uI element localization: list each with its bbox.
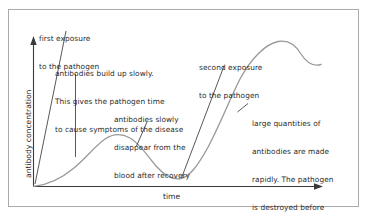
annotation-decay-line3: blood after recovery — [114, 171, 190, 180]
annotation-secondary-response-line3: rapidly. The pathogen — [252, 175, 333, 184]
annotation-secondary-response: large quantities of antibodies are made … — [252, 100, 333, 216]
annotation-secondary-response-line1: large quantities of — [252, 119, 333, 128]
annotation-decay-line2: disappear from the — [114, 143, 190, 152]
x-axis-label: time — [163, 192, 180, 201]
annotation-decay-line1: antibodies slowly — [114, 115, 190, 124]
y-axis-label: antibody concentration — [24, 90, 33, 178]
annotation-second-exposure-line1: second exposure — [199, 63, 262, 72]
annotation-decay: antibodies slowly disappear from the blo… — [114, 96, 190, 199]
annotation-secondary-response-line4: is destroyed before — [252, 203, 333, 212]
annotation-first-exposure-line1: first exposure — [39, 34, 99, 43]
annotation-secondary-response-line2: antibodies are made — [252, 147, 333, 156]
annotation-primary-response-line1: antibodies build up slowly. — [55, 69, 183, 78]
antibody-response-diagram: first exposure to the pathogen antibodie… — [0, 0, 367, 216]
